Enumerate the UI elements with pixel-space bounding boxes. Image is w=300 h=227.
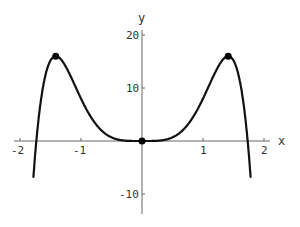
x-tick-label: -2 bbox=[11, 144, 24, 157]
x-tick-label: 1 bbox=[200, 144, 207, 157]
y-axis-label: y bbox=[138, 11, 145, 25]
y-tick-label: 10 bbox=[126, 82, 139, 95]
marked-point bbox=[225, 53, 232, 60]
x-tick-label: 2 bbox=[261, 144, 268, 157]
x-axis-label: x bbox=[278, 134, 285, 148]
marked-point bbox=[139, 138, 146, 145]
y-tick-label: 20 bbox=[126, 29, 139, 42]
x-tick-label: -1 bbox=[73, 144, 86, 157]
function-plot: -2 -1 1 2 20 10 -10 x y bbox=[0, 0, 300, 227]
y-tick-label: -10 bbox=[119, 188, 139, 201]
marked-point bbox=[52, 53, 59, 60]
